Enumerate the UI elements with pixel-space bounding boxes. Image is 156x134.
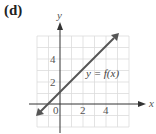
x-tick-4: 4 bbox=[103, 104, 109, 116]
x-tick-2: 2 bbox=[80, 104, 86, 116]
y-axis-arrow-icon bbox=[57, 22, 63, 30]
y-tick-4: 4 bbox=[50, 53, 56, 65]
x-tick-0: 0 bbox=[53, 104, 59, 116]
y-axis-label: y bbox=[56, 9, 62, 21]
y-tick-2: 2 bbox=[50, 76, 56, 88]
function-label: y = f(x) bbox=[85, 67, 119, 80]
x-axis-arrow-icon bbox=[138, 101, 146, 107]
x-axis-label: x bbox=[148, 97, 154, 109]
function-graph: x y 0 2 4 2 4 y = f(x) bbox=[0, 0, 156, 134]
